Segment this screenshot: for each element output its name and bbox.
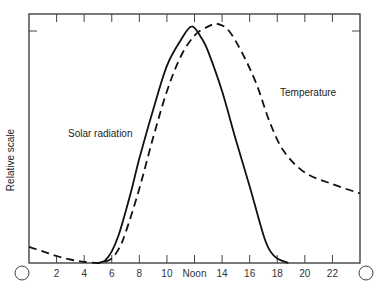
temperature-line [29,24,360,263]
x-tick-label: 2 [54,268,60,279]
solar-radiation-label: Solar radiation [68,128,132,139]
x-tick-label: Noon [183,268,207,279]
x-tick-labels: 246810Noon1416182022 [54,268,339,279]
x-tick-label: 4 [81,268,87,279]
chart: 246810Noon1416182022 Relative scale Sola… [0,0,377,290]
temperature-label: Temperature [280,87,337,98]
y-axis-label: Relative scale [5,128,16,191]
x-tick-label: 6 [109,268,115,279]
midnight-start-marker-icon [15,266,29,280]
midnight-end-marker-icon [359,266,373,280]
x-tick-label: 16 [244,268,256,279]
x-tick-label: 20 [299,268,311,279]
x-tick-label: 22 [327,268,339,279]
x-tick-label: 18 [272,268,284,279]
x-tick-label: 8 [137,268,143,279]
x-tick-label: 10 [161,268,173,279]
x-tick-label: 14 [217,268,229,279]
